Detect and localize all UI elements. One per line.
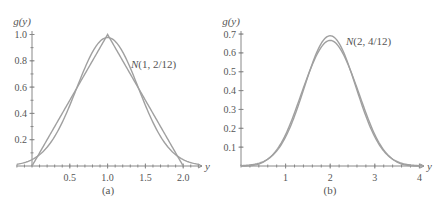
panel-caption: (a) (102, 184, 115, 197)
y-tick-label: 0.2 (224, 123, 237, 134)
x-tick-label: 2 (328, 172, 333, 183)
y-tick-label: 0.6 (15, 82, 28, 93)
x-tick-label: 2.0 (177, 172, 190, 183)
x-tick-label: 4 (417, 172, 422, 183)
x-tick-label: 1.0 (101, 172, 114, 183)
exact-density-curve (241, 40, 419, 166)
x-tick-label: 1 (283, 172, 288, 183)
normal-approx-curve (241, 36, 424, 166)
y-axis-title: g(y) (222, 15, 240, 28)
y-tick-label: 0.4 (224, 85, 237, 96)
y-tick-label: 0.6 (224, 47, 237, 58)
x-axis-title: y (426, 160, 432, 172)
y-tick-label: 0.8 (15, 55, 28, 66)
normal-curve-label: N(2, 4/12) (345, 35, 392, 48)
panel-a: 0.51.01.52.00.20.40.60.81.0g(y)yN(1, 2/1… (13, 15, 210, 197)
y-tick-label: 0.1 (224, 142, 237, 153)
y-tick-label: 0.4 (15, 108, 28, 119)
y-tick-label: 0.2 (15, 134, 28, 145)
panel-b: 12340.10.20.30.40.50.60.7g(y)yN(2, 4/12)… (222, 15, 432, 197)
x-tick-label: 3 (372, 172, 377, 183)
exact-density-curve (32, 35, 183, 167)
x-axis-title: y (204, 160, 210, 172)
x-tick-label: 1.5 (139, 172, 152, 183)
panel-caption: (b) (324, 184, 337, 197)
y-tick-label: 1.0 (15, 29, 28, 40)
y-tick-label: 0.3 (224, 104, 237, 115)
y-tick-label: 0.5 (224, 66, 237, 77)
y-axis-title: g(y) (13, 15, 31, 28)
figure: 0.51.01.52.00.20.40.60.81.0g(y)yN(1, 2/1… (0, 0, 444, 207)
y-tick-label: 0.7 (224, 29, 237, 40)
x-tick-label: 0.5 (64, 172, 77, 183)
normal-curve-label: N(1, 2/12) (130, 58, 177, 71)
